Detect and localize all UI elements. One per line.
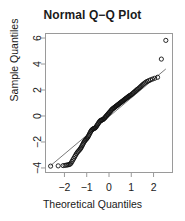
y-axis-group: −4−20246 bbox=[32, 35, 46, 174]
y-axis-tick-label: 2 bbox=[32, 87, 44, 93]
x-axis-group: −2−1012 bbox=[58, 173, 156, 193]
x-axis-tick-label: 1 bbox=[128, 181, 134, 193]
y-axis-tick-label: 4 bbox=[32, 61, 44, 67]
x-axis-tick-label: −2 bbox=[58, 181, 70, 193]
plot-canvas: −4−20246 −2−1012 bbox=[0, 0, 185, 221]
x-axis-tick-label: 2 bbox=[151, 181, 157, 193]
plot-border bbox=[46, 34, 173, 173]
x-axis-tick-label: 0 bbox=[106, 181, 112, 193]
qq-plot-figure: Normal Q−Q Plot Sample Quantiles Theoret… bbox=[0, 0, 185, 221]
data-points-group bbox=[49, 38, 168, 168]
y-axis-tick-label: −2 bbox=[32, 136, 44, 148]
y-axis-tick-label: −4 bbox=[32, 162, 44, 174]
data-point bbox=[159, 57, 163, 61]
data-point bbox=[56, 164, 60, 168]
x-axis-tick-label: −1 bbox=[81, 181, 93, 193]
y-axis-tick-label: 6 bbox=[32, 35, 44, 41]
data-point bbox=[164, 38, 168, 42]
y-axis-tick-label: 0 bbox=[32, 113, 44, 119]
data-point bbox=[49, 164, 53, 168]
plot-frame bbox=[46, 34, 173, 173]
